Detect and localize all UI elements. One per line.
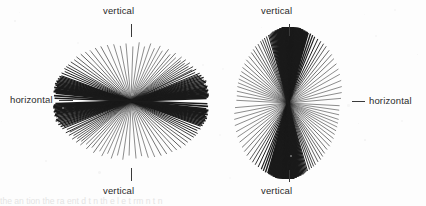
cut-off-caption-text: the an tion the ra ent d t n th e l e t … (0, 197, 426, 206)
right-panel-vertical-tick-top (289, 24, 290, 36)
rose-diagrams-plot (0, 0, 426, 206)
scan-speck (131, 93, 134, 96)
rose-panel-left (53, 42, 209, 159)
scan-speck (394, 9, 396, 11)
scan-speck (222, 68, 224, 70)
left-panel-vertical-tick-bottom (131, 168, 132, 181)
figure-container: vertical horizontal vertical vertical ho… (0, 0, 426, 206)
scan-speck (47, 101, 50, 104)
scan-speck (89, 50, 91, 52)
right-panel-vertical-label-bottom: vertical (261, 186, 292, 196)
right-panel-horizontal-tick (352, 101, 365, 102)
scan-speck (347, 104, 350, 107)
scan-speck (202, 64, 204, 66)
scan-speck (14, 20, 16, 22)
right-panel-vertical-tick-bottom (289, 170, 290, 182)
left-panel-vertical-tick-top (131, 24, 132, 37)
scan-speck (375, 35, 377, 37)
left-panel-vertical-label-top: vertical (103, 6, 134, 16)
right-panel-vertical-label-top: vertical (261, 6, 292, 16)
scan-speck (401, 120, 403, 122)
scan-speck (364, 139, 366, 141)
left-panel-horizontal-tick (59, 100, 73, 101)
rose-panel-right (234, 27, 342, 179)
scan-speck (62, 107, 64, 109)
scan-speck (98, 171, 101, 174)
scan-speck (229, 177, 231, 179)
right-panel-horizontal-label: horizontal (369, 96, 412, 106)
left-panel-vertical-label-bottom: vertical (103, 186, 134, 196)
